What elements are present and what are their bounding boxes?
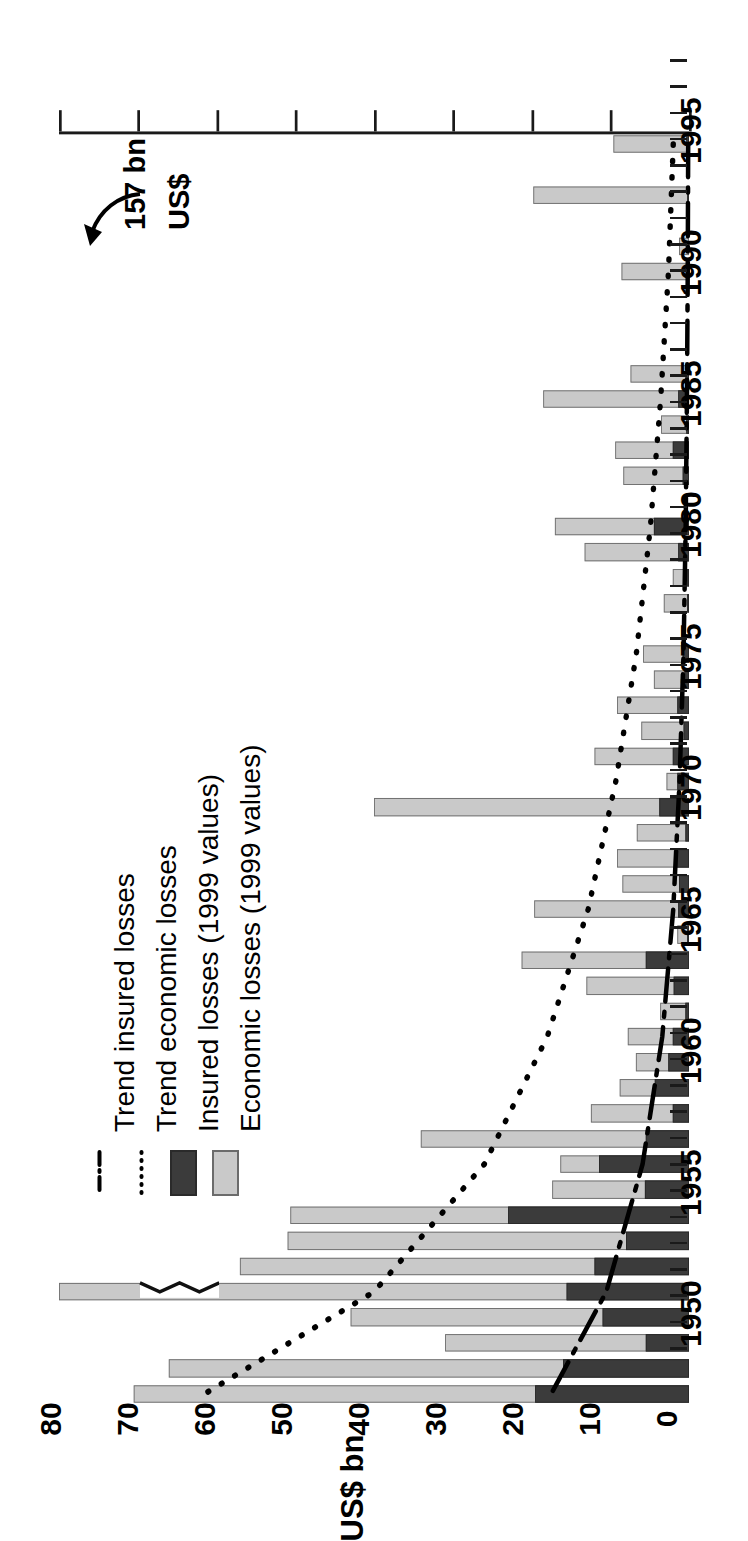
year-tick: [670, 269, 687, 272]
legend-label: Economic losses (1999 values): [235, 744, 267, 1132]
year-tick: [670, 138, 687, 141]
year-tick: [670, 59, 687, 62]
legend-swatch-economic: [212, 1150, 239, 1196]
year-tick: [670, 1032, 687, 1035]
legend-dash-dot-line-icon: [86, 1150, 113, 1196]
year-tick: [670, 453, 687, 456]
year-tick: [670, 374, 687, 377]
zigzag-break-icon: [133, 1276, 219, 1307]
year-tick: [670, 480, 687, 483]
annotation-line-2: US$: [164, 174, 194, 230]
year-tick: [670, 1058, 687, 1061]
value-tick-label: 60: [188, 1397, 222, 1441]
year-tick: [670, 900, 687, 903]
value-tick-label: 30: [419, 1397, 453, 1441]
year-tick: [670, 716, 687, 719]
trend-economic-path: [205, 144, 674, 1394]
value-axis-title: US$ bn: [335, 1435, 371, 1541]
year-tick: [670, 1242, 687, 1245]
year-tick: [670, 953, 687, 956]
year-tick: [670, 979, 687, 982]
value-tick: [374, 110, 377, 131]
year-tick: [670, 1268, 687, 1271]
value-tick: [138, 110, 141, 131]
year-tick: [670, 926, 687, 929]
legend-label: Insured losses (1999 values): [193, 774, 225, 1132]
legend-swatch-insured: [170, 1150, 197, 1196]
year-tick: [670, 348, 687, 351]
year-tick: [670, 1163, 687, 1166]
year-tick: [670, 217, 687, 220]
year-tick: [670, 664, 687, 667]
year-tick: [670, 874, 687, 877]
value-tick-label: 70: [111, 1397, 145, 1441]
year-tick: [670, 585, 687, 588]
year-tick: [670, 85, 687, 88]
value-tick: [59, 110, 62, 131]
value-tick-label: 0: [650, 1397, 684, 1441]
value-tick: [295, 110, 298, 131]
value-tick: [532, 110, 535, 131]
legend-label: Trend insured losses: [109, 873, 141, 1132]
value-tick-label: 10: [573, 1397, 607, 1441]
year-tick: [670, 112, 687, 115]
value-tick: [453, 110, 456, 131]
year-tick: [670, 1110, 687, 1113]
year-tick: [670, 164, 687, 167]
value-tick-label: 50: [265, 1397, 299, 1441]
year-tick: [670, 296, 687, 299]
year-tick: [670, 1321, 687, 1324]
trend-lines-group: [59, 131, 689, 1406]
year-tick: [670, 848, 687, 851]
year-tick: [670, 401, 687, 404]
legend-dotted-line-icon: [128, 1150, 155, 1196]
year-tick: [670, 742, 687, 745]
year-tick: [670, 558, 687, 561]
rotated-plot-group: [59, 131, 689, 1406]
year-tick: [670, 795, 687, 798]
year-tick: [670, 190, 687, 193]
year-tick: [670, 1294, 687, 1297]
year-tick: [670, 1005, 687, 1008]
year-tick: [670, 243, 687, 246]
year-tick: [670, 1084, 687, 1087]
value-tick: [217, 110, 220, 131]
value-tick-label: 80: [34, 1397, 68, 1441]
year-tick: [670, 821, 687, 824]
value-tick-label: 20: [496, 1397, 530, 1441]
year-tick: [670, 637, 687, 640]
year-tick: [670, 427, 687, 430]
year-tick: [670, 1216, 687, 1219]
year-tick: [670, 532, 687, 535]
year-tick: [670, 322, 687, 325]
plot-area: [59, 131, 689, 1406]
year-tick: [670, 1137, 687, 1140]
year-tick: [670, 1347, 687, 1350]
legend-label: Trend economic losses: [151, 845, 183, 1132]
year-tick: [670, 1189, 687, 1192]
year-tick: [670, 506, 687, 509]
value-tick: [610, 110, 613, 131]
year-tick: [670, 690, 687, 693]
trend-insured-path: [551, 144, 688, 1394]
year-tick: [670, 769, 687, 772]
year-tick: [670, 611, 687, 614]
annotation-arrow-icon: [62, 188, 152, 278]
